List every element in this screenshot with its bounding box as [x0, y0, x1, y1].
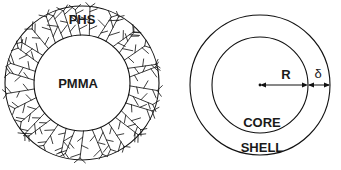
polymer-chain-segment — [6, 87, 11, 93]
polymer-chain-segment — [65, 153, 68, 157]
polymer-chain-segment — [157, 86, 162, 91]
polymer-chain-segment — [108, 150, 111, 155]
polymer-chain-segment — [55, 148, 62, 151]
radius-label: R — [281, 67, 291, 82]
polymer-chain-segment — [9, 106, 15, 109]
polymer-chain-segment — [106, 140, 113, 141]
polymer-chain-segment — [28, 107, 36, 109]
polymer-chain-segment — [119, 121, 121, 129]
polymer-chain-segment — [16, 117, 24, 119]
radius-arrow-left-icon — [260, 83, 266, 88]
polymer-chain-segment — [70, 143, 74, 148]
polymer-chain-segment — [28, 62, 29, 70]
polymer-chain-segment — [82, 145, 88, 148]
radius-arrow-right-icon — [302, 83, 308, 88]
polymer-chain-segment — [137, 87, 138, 93]
polymer-chain-segment — [13, 109, 15, 115]
polymer-chain-segment — [75, 4, 80, 9]
polymer-chain-segment — [99, 154, 102, 159]
polymer-chain-segment — [23, 84, 28, 90]
polymer-chain-segment — [110, 127, 112, 133]
polymer-chain-segment — [57, 152, 62, 154]
polymer-chain-segment — [25, 38, 26, 45]
polymer-chain-segment — [71, 154, 81, 157]
polymer-chain-segment — [32, 38, 39, 39]
polymer-chain-segment — [17, 91, 20, 97]
polymer-chain-segment — [35, 124, 36, 134]
polymer-chain-segment — [101, 127, 111, 149]
polymer-chain-segment — [142, 48, 148, 54]
polymer-chain-segment — [124, 46, 144, 60]
polymer-chain-segment — [140, 105, 147, 108]
polymer-chain-segment — [65, 130, 74, 153]
polymer-chain-segment — [111, 15, 118, 17]
polymer-chain-segment — [141, 94, 147, 100]
polymer-chain-segment — [127, 124, 135, 126]
polymer-chain-segment — [11, 55, 14, 65]
polymer-chain-segment — [55, 12, 62, 19]
polymer-chain-segment — [126, 103, 152, 111]
polymer-chain-segment — [90, 136, 95, 141]
polymer-chain-segment — [38, 145, 43, 146]
polymer-chain-segment — [134, 75, 137, 81]
polymer-chain-segment — [54, 16, 64, 39]
polymer-chain-segment — [60, 21, 67, 22]
polymer-chain-segment — [130, 35, 140, 36]
polymer-chain-segment — [98, 20, 105, 27]
thickness-label: δ — [314, 66, 321, 81]
polymer-chain-segment — [134, 67, 139, 73]
polymer-chain-segment — [124, 115, 125, 123]
thickness-arrow-right-icon — [324, 83, 330, 88]
polymer-chain-segment — [109, 123, 124, 146]
polymer-chain-segment — [12, 102, 18, 107]
phs-label: PHS — [69, 12, 96, 27]
polymer-chain-segment — [151, 69, 157, 77]
polymer-chain-segment — [99, 132, 103, 141]
polymer-chain-segment — [48, 16, 53, 21]
polymer-chain-segment — [9, 59, 11, 63]
polymer-chain-segment — [38, 142, 46, 143]
polymer-chain-segment — [19, 67, 23, 74]
polymer-chain-segment — [128, 57, 133, 62]
polymer-chain-segment — [117, 134, 124, 136]
polymer-chain-segment — [147, 109, 151, 119]
polymer-chain-segment — [135, 45, 136, 53]
thickness-dimension: δ — [308, 66, 330, 87]
polymer-chain-segment — [19, 55, 27, 59]
polymer-chain-segment — [103, 145, 108, 152]
figure-canvas: PHS PMMA R δ CORE SHELL — [0, 0, 341, 170]
radius-dimension: R — [260, 67, 308, 87]
polymer-chain-segment — [48, 14, 53, 16]
polymer-chain-segment — [131, 118, 140, 121]
polymer-chain-segment — [40, 128, 42, 134]
polymer-chain-segment — [122, 49, 132, 51]
polymer-chain-segment — [26, 95, 31, 100]
polymer-chain-segment — [141, 129, 147, 130]
left-diagram-group: PHS PMMA — [2, 3, 162, 163]
polymer-chain-segment — [143, 59, 144, 66]
right-diagram-group: R δ CORE SHELL — [190, 15, 330, 155]
polymer-chain-segment — [53, 27, 57, 36]
polymer-chain-segment — [2, 90, 6, 94]
polymer-chain-segment — [122, 146, 124, 152]
polymer-chain-segment — [111, 150, 117, 152]
thickness-arrow-left-icon — [308, 83, 314, 88]
polymer-chain-segment — [32, 22, 33, 29]
polymer-chain-segment — [61, 25, 67, 33]
shell-label: SHELL — [241, 140, 284, 155]
polymer-chain-segment — [51, 136, 53, 144]
polymer-chain-segment — [20, 122, 21, 129]
core-shell-figure: PHS PMMA R δ CORE SHELL — [0, 0, 341, 170]
core-label: CORE — [243, 115, 281, 130]
polymer-chain-segment — [42, 27, 51, 30]
polymer-chain-segment — [144, 81, 148, 88]
polymer-chain-segment — [92, 130, 102, 154]
polymer-chain-segment — [153, 90, 157, 98]
polymer-chain-segment — [47, 25, 58, 26]
polymer-chain-segment — [15, 76, 21, 81]
pmma-label: PMMA — [58, 76, 98, 91]
polymer-chain-segment — [94, 150, 101, 157]
polymer-chain-segment — [59, 133, 66, 134]
polymer-chain-segment — [21, 37, 22, 42]
polymer-chain-segment — [45, 37, 49, 44]
